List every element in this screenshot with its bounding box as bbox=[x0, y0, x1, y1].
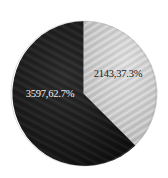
pie-chart-svg: 2143,37.3% 3597,62.7% bbox=[0, 0, 168, 178]
pie-label-light: 2143,37.3% bbox=[94, 68, 143, 79]
pie-label-dark: 3597,62.7% bbox=[26, 88, 75, 99]
pie-chart-figure: 2143,37.3% 3597,62.7% bbox=[0, 0, 168, 178]
